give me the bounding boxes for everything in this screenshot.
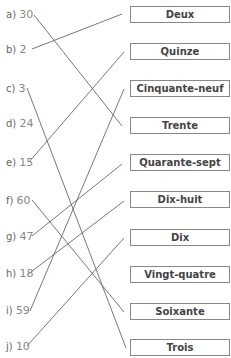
item-h[interactable]: h) 18	[6, 267, 33, 280]
item-e[interactable]: e) 15	[6, 156, 33, 169]
item-d[interactable]: d) 24	[6, 117, 33, 130]
box-trois[interactable]: Trois	[130, 339, 230, 356]
item-g[interactable]: g) 47	[6, 230, 33, 243]
item-b[interactable]: b) 2	[6, 43, 26, 56]
box-quinze[interactable]: Quinze	[130, 43, 230, 60]
box-soixante[interactable]: Soixante	[130, 303, 230, 320]
item-c[interactable]: c) 3	[6, 82, 26, 95]
box-quarante-sept[interactable]: Quarante-sept	[130, 154, 230, 171]
item-a[interactable]: a) 30	[6, 8, 33, 21]
box-vingt-quatre[interactable]: Vingt-quatre	[130, 266, 230, 283]
box-trente[interactable]: Trente	[130, 117, 230, 134]
item-i[interactable]: i) 59	[6, 304, 30, 317]
box-deux[interactable]: Deux	[130, 6, 230, 23]
box-dix-huit[interactable]: Dix-huit	[130, 191, 230, 208]
item-f[interactable]: f) 60	[6, 194, 31, 207]
item-j[interactable]: j) 10	[6, 340, 30, 353]
box-cinquante-neuf[interactable]: Cinquante-neuf	[130, 80, 230, 97]
box-dix[interactable]: Dix	[130, 229, 230, 246]
